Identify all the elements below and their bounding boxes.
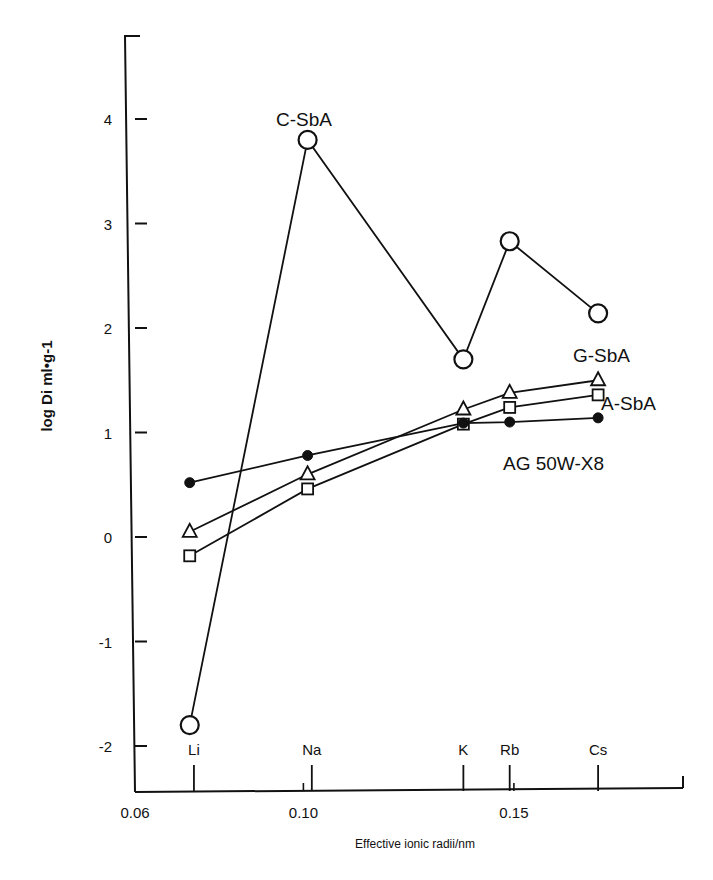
y-tick-label: 3: [104, 216, 112, 233]
x-axis-label: Effective ionic radii/nm: [355, 837, 475, 851]
y-axis-label: log Di ml•g-1: [38, 340, 55, 431]
marker-ag-50w-x8-rb: [505, 417, 515, 427]
series-markers: [181, 131, 607, 734]
x-tick-label: 0.10: [289, 804, 318, 821]
y-tick-label: -1: [99, 634, 112, 651]
marker-ag-50w-x8-li: [185, 478, 195, 488]
marker-c-sba-li: [181, 716, 199, 734]
x-axis: [135, 788, 683, 792]
x-tick-label: 0.06: [120, 804, 149, 821]
marker-ag-50w-x8-cs: [593, 413, 603, 423]
y-tick-label: 4: [104, 111, 112, 128]
marker-c-sba-cs: [589, 304, 607, 322]
ion-ticks: LiNaKRbCs: [188, 741, 607, 791]
marker-a-sba-na: [302, 483, 313, 494]
marker-ag-50w-x8-na: [303, 450, 313, 460]
label-g-sba: G-SbA: [573, 345, 630, 366]
marker-a-sba-rb: [504, 402, 515, 413]
marker-c-sba-k: [454, 350, 472, 368]
marker-ag-50w-x8-k: [458, 418, 468, 428]
label-a-sba: A-SbA: [601, 393, 656, 414]
chart: 43210-1-2 0.060.100.15 LiNaKRbCs C-SbA G…: [0, 0, 713, 880]
series-lines: [190, 140, 598, 725]
series-line-c-sba: [190, 140, 598, 725]
y-tick-label: -2: [99, 738, 112, 755]
marker-c-sba-na: [299, 131, 317, 149]
marker-c-sba-rb: [501, 232, 519, 250]
y-tick-label: 2: [104, 320, 112, 337]
ion-label-rb: Rb: [500, 741, 519, 758]
ion-label-cs: Cs: [589, 741, 607, 758]
marker-g-sba-cs: [591, 372, 605, 385]
x-tick-label: 0.15: [499, 804, 528, 821]
y-axis: [125, 36, 140, 792]
y-tick-label: 1: [104, 425, 112, 442]
ion-label-k: K: [458, 741, 468, 758]
ion-label-li: Li: [188, 741, 200, 758]
ion-label-na: Na: [302, 741, 322, 758]
marker-a-sba-li: [184, 550, 195, 561]
label-ag50w-x8: AG 50W-X8: [503, 453, 604, 474]
y-ticks: 43210-1-2: [99, 111, 147, 755]
y-tick-label: 0: [104, 529, 112, 546]
label-c-sba: C-SbA: [276, 109, 332, 130]
